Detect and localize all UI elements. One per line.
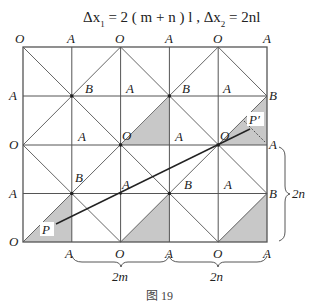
svg-text:O: O <box>115 246 125 261</box>
point-p-label: P <box>41 222 50 237</box>
svg-text:A: A <box>8 88 17 103</box>
left-labels: A O A <box>8 88 19 201</box>
brace-label-2m: 2m <box>112 269 128 284</box>
svg-text:O: O <box>15 31 25 46</box>
svg-text:A: A <box>125 81 134 96</box>
svg-text:A: A <box>223 177 232 192</box>
svg-text:O: O <box>122 128 132 143</box>
svg-text:A: A <box>66 31 75 46</box>
svg-text:A: A <box>77 129 86 144</box>
svg-text:B: B <box>269 88 277 103</box>
svg-text:O: O <box>9 137 19 152</box>
svg-text:O: O <box>213 31 223 46</box>
svg-text:A: A <box>174 129 183 144</box>
svg-text:A: A <box>8 186 17 201</box>
svg-text:O: O <box>115 31 125 46</box>
svg-text:B: B <box>75 170 83 185</box>
point-p-prime-label: P′ <box>248 112 260 127</box>
svg-text:A: A <box>262 246 271 261</box>
svg-text:A: A <box>222 81 231 96</box>
figure-caption: 图 19 <box>146 289 173 303</box>
brace-label-2n-bottom: 2n <box>210 269 223 284</box>
svg-text:A: A <box>262 31 271 46</box>
formula: Δx1 = 2 ( m + n ) l , Δx2 = 2nl <box>83 9 260 29</box>
svg-text:O: O <box>9 234 19 249</box>
top-labels: O A O A O A <box>15 31 271 46</box>
svg-text:A: A <box>268 137 277 152</box>
right-labels: B A B <box>268 88 277 201</box>
figure: Δx1 = 2 ( m + n ) l , Δx2 = 2nl <box>0 0 315 303</box>
svg-text:O: O <box>220 128 230 143</box>
svg-text:B: B <box>184 177 192 192</box>
lattice-diagram: Δx1 = 2 ( m + n ) l , Δx2 = 2nl <box>0 0 315 303</box>
svg-text:A: A <box>121 177 130 192</box>
svg-text:A: A <box>164 31 173 46</box>
svg-text:B: B <box>182 81 190 96</box>
svg-text:B: B <box>269 186 277 201</box>
svg-text:A: A <box>64 246 73 261</box>
svg-text:B: B <box>85 81 93 96</box>
svg-text:A: A <box>164 246 173 261</box>
svg-text:O: O <box>213 246 223 261</box>
brace-label-2n-right: 2n <box>292 186 305 201</box>
